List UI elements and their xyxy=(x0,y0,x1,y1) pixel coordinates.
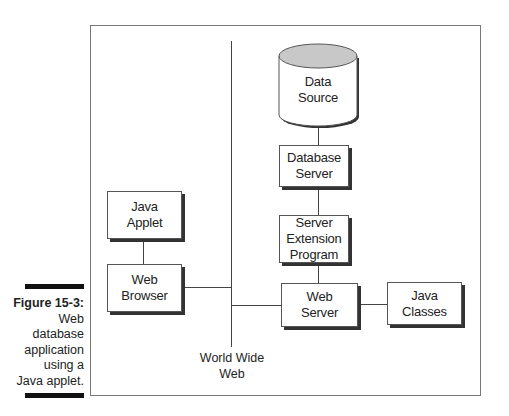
data-source-node: Data Source xyxy=(279,70,357,110)
server-extension-label: Server Extension Program xyxy=(286,215,341,263)
data-source-label: Data Source xyxy=(298,74,338,106)
web-server-node: Web Server xyxy=(281,283,358,327)
database-server-label: Database Server xyxy=(287,150,341,182)
java-applet-node: Java Applet xyxy=(107,191,182,239)
web-server-label: Web Server xyxy=(301,289,338,321)
database-server-node: Database Server xyxy=(279,145,349,187)
world-wide-web-label: World Wide Web xyxy=(190,350,274,382)
java-classes-node: Java Classes xyxy=(387,282,462,325)
server-extension-program-node: Server Extension Program xyxy=(279,215,349,263)
web-browser-label: Web Browser xyxy=(121,272,167,304)
web-browser-node: Web Browser xyxy=(107,264,182,312)
java-classes-label: Java Classes xyxy=(402,288,447,320)
java-applet-label: Java Applet xyxy=(127,199,163,231)
